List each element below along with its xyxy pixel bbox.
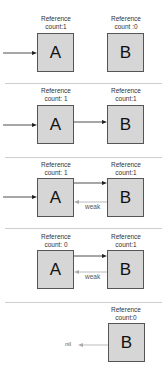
weak-label: weak bbox=[85, 273, 100, 280]
arrowhead-icon bbox=[102, 120, 107, 124]
arrowhead-icon bbox=[74, 270, 79, 274]
panel-step-4: Reference count: 0 Reference count:1 A B… bbox=[0, 220, 167, 300]
panel-step-5: Reference count:0 B nil bbox=[0, 290, 167, 368]
arrows-layer bbox=[0, 75, 167, 155]
panel-step-1: Reference count:1 Reference count :0 A B bbox=[0, 0, 167, 80]
arrows-layer bbox=[0, 0, 167, 80]
arrows-layer bbox=[0, 220, 167, 300]
weak-label: weak bbox=[85, 203, 100, 210]
arrowhead-icon bbox=[102, 254, 107, 258]
arrowhead-icon bbox=[78, 343, 83, 347]
arrowhead-icon bbox=[32, 123, 37, 127]
arrowhead-icon bbox=[74, 200, 79, 204]
panel-step-2: Reference count: 1 Reference count:1 A B bbox=[0, 75, 167, 155]
arrowhead-icon bbox=[32, 51, 37, 55]
arrowhead-icon bbox=[32, 195, 37, 199]
panel-step-3: Reference count: 1 Reference count:1 A B… bbox=[0, 145, 167, 225]
nil-label: nil bbox=[65, 341, 71, 347]
arrows-layer bbox=[0, 145, 167, 225]
arrows-layer bbox=[0, 290, 167, 368]
arrowhead-icon bbox=[102, 181, 107, 185]
